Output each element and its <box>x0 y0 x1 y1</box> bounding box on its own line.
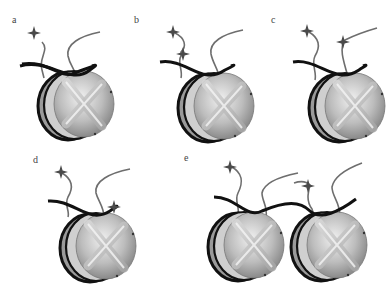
modification-star-icon <box>300 24 314 38</box>
nucleosome-diagram-b <box>125 0 255 140</box>
modification-star-icon <box>176 47 190 61</box>
modification-star-icon <box>336 35 350 49</box>
modification-star-icon <box>27 26 41 40</box>
modification-star-icon <box>223 160 237 174</box>
panel-b: b <box>125 0 255 140</box>
panel-label-e: e <box>184 153 188 163</box>
panel-c: c <box>255 0 387 140</box>
nucleosome-diagram-e <box>190 145 387 285</box>
nucleosome-diagram-c <box>255 0 387 140</box>
panel-a: a <box>0 0 130 140</box>
nucleosome-diagram-d <box>0 145 150 285</box>
modification-star-icon <box>54 165 68 179</box>
nucleosome-diagram-a <box>0 0 130 140</box>
modification-star-icon <box>166 25 180 39</box>
panel-d: d <box>0 145 150 285</box>
panel-e: e <box>190 145 387 285</box>
